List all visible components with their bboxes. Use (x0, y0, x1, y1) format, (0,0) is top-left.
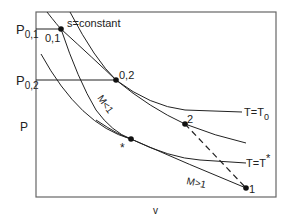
point-star-label: * (120, 141, 125, 155)
point-02 (113, 77, 119, 83)
plot-frame (36, 12, 276, 197)
isentrope-label: s=constant (67, 17, 121, 29)
point-02-label: 0,2 (119, 69, 134, 81)
point-star (128, 136, 134, 142)
point-1-label: 1 (249, 183, 255, 195)
point-2-label: 2 (187, 113, 193, 125)
t0-label: T=T0 (244, 106, 269, 122)
subsonic-label: M<1 (95, 93, 116, 116)
y-axis-label: P (20, 120, 28, 134)
supersonic-label: M>1 (186, 175, 208, 190)
supersonic-branch-curve (41, 54, 246, 188)
point-01-label: 0,1 (45, 32, 60, 44)
tstar-label: T=T* (246, 152, 271, 169)
point-01 (58, 26, 64, 32)
p-v-diagram: P0,1 P0,2 P v 0,1 0,2 * 2 1 s=constant T… (0, 0, 291, 223)
x-axis-label: v (153, 205, 158, 216)
point-1 (243, 185, 249, 191)
